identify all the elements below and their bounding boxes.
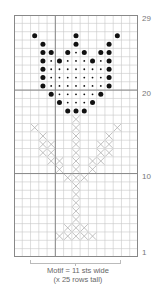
chart-grid <box>14 15 138 257</box>
caption-width: Motif = 11 sts wide <box>0 266 156 275</box>
row-label-20: 20 <box>142 90 151 98</box>
row-label-29: 29 <box>142 15 151 23</box>
caption-height: (x 25 rows tall) <box>0 275 156 284</box>
row-label-10: 10 <box>142 173 151 181</box>
knitting-chart <box>14 15 138 257</box>
row-label-1: 1 <box>142 249 146 257</box>
